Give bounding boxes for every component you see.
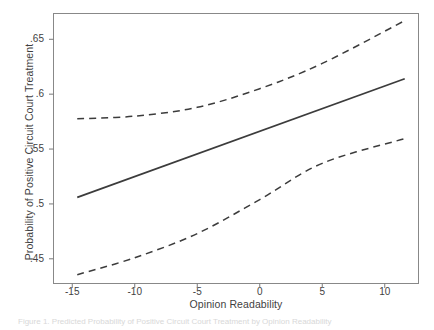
- figure-container: Probability of Positive Circuit Court Tr…: [0, 0, 434, 330]
- predicted-probability-line: [77, 79, 405, 198]
- plot-frame: [54, 14, 419, 284]
- plot-area: [0, 0, 434, 330]
- lower-confidence-bound-line: [77, 139, 405, 275]
- upper-confidence-bound-line: [77, 21, 405, 119]
- tick-marks: [49, 39, 385, 288]
- figure-caption: Figure 1. Predicted Probability of Posit…: [18, 316, 422, 327]
- axis-frame: [54, 14, 419, 284]
- data-lines: [77, 21, 405, 275]
